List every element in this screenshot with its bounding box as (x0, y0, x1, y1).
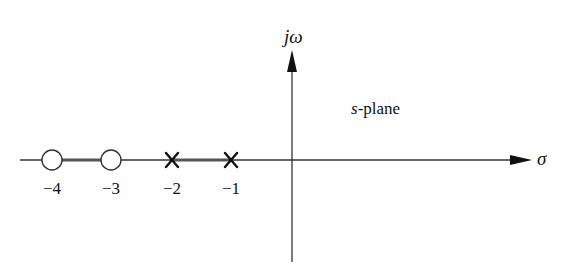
tick-label-neg4: −4 (43, 180, 61, 197)
s-plane-suffix: -plane (358, 99, 400, 118)
tick-label-neg3: −3 (102, 180, 120, 197)
s-plane-label: s-plane (351, 100, 400, 117)
zero-circle-icon (101, 150, 121, 170)
real-axis-arrowhead-icon (510, 155, 532, 165)
real-axis-label: σ (537, 149, 546, 168)
imaginary-axis-arrowhead-icon (287, 50, 297, 72)
tick-label-neg1: −1 (222, 180, 240, 197)
zero-circle-icon (42, 150, 62, 170)
imaginary-axis (287, 50, 297, 262)
s-plane-diagram: jω σ s-plane −4 −3 −2 −1 (0, 0, 567, 278)
imaginary-axis-label: jω (284, 27, 303, 46)
tick-label-neg2: −2 (163, 180, 181, 197)
s-plane-variable: s (351, 99, 358, 118)
